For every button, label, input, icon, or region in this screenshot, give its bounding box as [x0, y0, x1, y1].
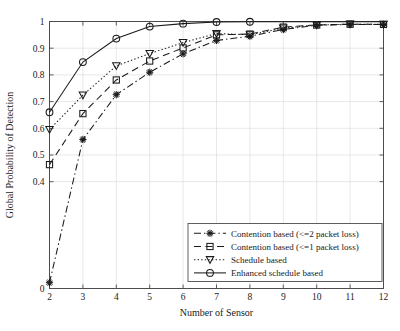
legend-label: Contention based (<=1 packet loss)	[231, 242, 359, 252]
x-tick-label: 5	[147, 292, 152, 302]
x-tick-label: 2	[47, 292, 52, 302]
line-chart: 2345678910111200.40.50.60.70.80.91 Numbe…	[0, 0, 400, 331]
legend-label: Enhanced schedule based	[231, 268, 323, 278]
data-point-marker	[46, 279, 53, 286]
x-tick-label: 12	[379, 292, 389, 302]
y-tick-label: 0.5	[33, 150, 45, 160]
y-tick-label: 1	[40, 17, 45, 27]
y-tick-label: 0.9	[33, 44, 45, 54]
y-tick-label: 0.7	[33, 97, 45, 107]
y-axis-title: Global Probability of Detection	[4, 92, 15, 218]
x-tick-label: 4	[114, 292, 119, 302]
x-tick-label: 11	[346, 292, 355, 302]
chart-legend: Contention based (<=2 packet loss)Conten…	[188, 224, 382, 282]
x-tick-label: 8	[248, 292, 253, 302]
chart-figure: 2345678910111200.40.50.60.70.80.91 Numbe…	[0, 0, 400, 331]
x-tick-label: 7	[214, 292, 219, 302]
x-tick-label: 3	[81, 292, 86, 302]
data-point-marker	[113, 91, 120, 98]
x-tick-label: 9	[281, 292, 286, 302]
legend-label: Schedule based	[231, 255, 287, 265]
y-tick-label: 0	[40, 284, 45, 294]
x-axis-title: Number of Sensor	[180, 307, 254, 318]
x-tick-label: 10	[312, 292, 322, 302]
y-tick-label: 0.6	[33, 124, 45, 134]
y-tick-label: 0.8	[33, 70, 45, 80]
y-tick-label: 0.4	[33, 177, 45, 187]
legend-label: Contention based (<=2 packet loss)	[231, 229, 359, 239]
x-tick-label: 6	[181, 292, 186, 302]
